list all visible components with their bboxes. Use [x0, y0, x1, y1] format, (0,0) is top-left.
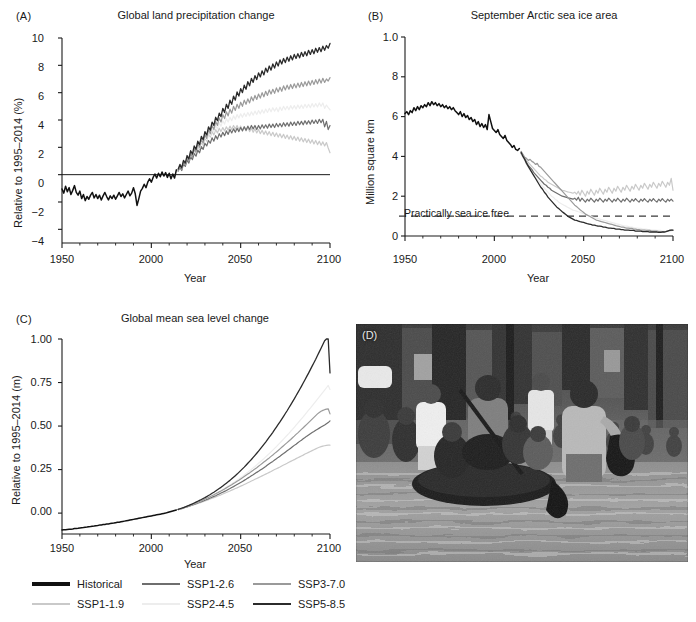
- legend-label-ssp2-45: SSP2-4.5: [187, 598, 234, 610]
- panel-d-photograph: (D): [356, 324, 688, 562]
- flood-scene-illustration: [356, 324, 688, 562]
- panel-b-xtick-2050: 2050: [559, 253, 607, 265]
- legend-label-ssp1-19: SSP1-1.9: [77, 598, 124, 610]
- panel-b-annotation-sea-ice-free: Practically sea ice free: [404, 207, 509, 219]
- legend-label-ssp3-70: SSP3-7.0: [298, 578, 345, 590]
- panel-c-xtick-2000: 2000: [127, 542, 175, 554]
- panel-a-xlabel: Year: [130, 272, 260, 284]
- panel-b-xtick-2000: 2000: [470, 253, 518, 265]
- legend-swatch-ssp5-85: [253, 603, 291, 606]
- panel-a-xtick-2100: 2100: [305, 253, 353, 265]
- panel-d-label: (D): [362, 329, 377, 341]
- panel-c-plot: [0, 305, 348, 567]
- legend-swatch-ssp1-26: [142, 583, 180, 585]
- legend-item-historical[interactable]: Historical: [32, 578, 122, 590]
- legend-swatch-ssp1-19: [32, 603, 70, 605]
- legend-swatch-historical: [32, 582, 70, 585]
- legend-swatch-ssp2-45: [142, 603, 180, 605]
- figure-legend: Historical SSP1-2.6 SSP3-7.0 SSP1-1.9 SS…: [0, 578, 350, 618]
- legend-label-historical: Historical: [77, 578, 122, 590]
- panel-b-xtick-1950: 1950: [381, 253, 429, 265]
- panel-b-xlabel: Year: [473, 272, 603, 284]
- panel-b: (B) September Arctic sea ice area 1.0 8 …: [348, 0, 696, 300]
- panel-c-xtick-1950: 1950: [38, 542, 86, 554]
- legend-item-ssp1-26[interactable]: SSP1-2.6: [142, 578, 234, 590]
- panel-c-xtick-2100: 2100: [305, 542, 353, 554]
- panel-b-xtick-2100: 2100: [648, 253, 696, 265]
- panel-a-xtick-2050: 2050: [216, 253, 264, 265]
- panel-a: (A) Global land precipitation change 10 …: [0, 0, 348, 300]
- legend-label-ssp1-26: SSP1-2.6: [187, 578, 234, 590]
- panel-a-xtick-1950: 1950: [38, 253, 86, 265]
- legend-item-ssp5-85[interactable]: SSP5-8.5: [253, 598, 345, 610]
- legend-item-ssp2-45[interactable]: SSP2-4.5: [142, 598, 234, 610]
- panel-c: (C) Global mean sea level change 1.00 0.…: [0, 305, 348, 567]
- legend-swatch-ssp3-70: [253, 583, 291, 585]
- panel-a-xtick-2000: 2000: [127, 253, 175, 265]
- legend-item-ssp3-70[interactable]: SSP3-7.0: [253, 578, 345, 590]
- panel-c-xlabel: Year: [130, 558, 260, 570]
- legend-label-ssp5-85: SSP5-8.5: [298, 598, 345, 610]
- legend-item-ssp1-19[interactable]: SSP1-1.9: [32, 598, 124, 610]
- panel-c-xtick-2050: 2050: [216, 542, 264, 554]
